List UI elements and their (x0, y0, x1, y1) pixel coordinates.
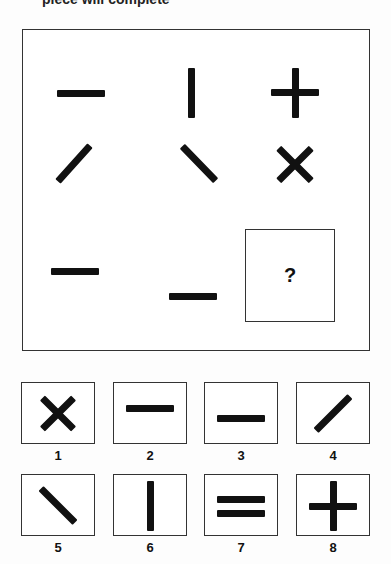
option-7-equals[interactable] (204, 474, 278, 536)
option-3-low-dash[interactable] (204, 382, 278, 444)
question-mark: ? (284, 264, 296, 287)
option-8-label: 8 (296, 540, 370, 555)
option-7-label: 7 (204, 540, 278, 555)
option-6-label: 6 (113, 540, 187, 555)
cell-horizontal-dash-icon (57, 90, 105, 98)
option-2-label: 2 (113, 448, 187, 463)
option-5-backslash[interactable] (21, 474, 95, 536)
cell-plus-icon (271, 68, 319, 118)
cell-backslash-icon (178, 143, 218, 185)
option-5-label: 5 (21, 540, 95, 555)
cell-horizontal-dash-icon (51, 268, 99, 276)
cell-vertical-bar-icon (188, 68, 196, 118)
option-4-label: 4 (296, 448, 370, 463)
cell-slash-icon (53, 143, 93, 185)
option-2-high-dash[interactable] (113, 382, 187, 444)
cell-x-cross-icon (275, 145, 315, 185)
option-1-x-cross[interactable] (21, 382, 95, 444)
option-8-plus[interactable] (296, 474, 370, 536)
cell-low-horizontal-dash-icon (169, 293, 217, 301)
option-4-slash[interactable] (296, 382, 370, 444)
missing-cell: ? (245, 229, 335, 322)
option-1-label: 1 (21, 448, 95, 463)
option-3-label: 3 (204, 448, 278, 463)
option-6-vertical-bar[interactable] (113, 474, 187, 536)
instruction-text-cutoff: piece will complete (42, 0, 170, 7)
